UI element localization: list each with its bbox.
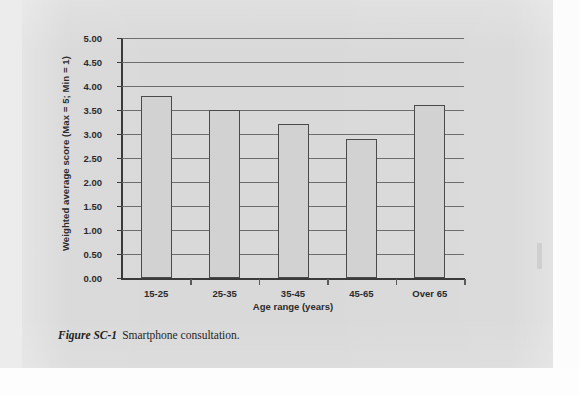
y-axis-tickmark (117, 38, 122, 39)
y-axis-tickmark (117, 86, 122, 87)
y-axis-tickmark (117, 206, 122, 207)
y-axis-tickmark (117, 62, 122, 63)
y-axis-tick-label: 1.00 (58, 225, 102, 236)
x-axis-category-tick (327, 279, 329, 285)
x-axis-tick-label: 25-35 (212, 288, 236, 299)
page-bottom-margin (0, 368, 579, 396)
y-axis-tick-label: 1.50 (58, 201, 102, 212)
y-axis-tickmark (117, 230, 122, 231)
x-axis-title: Age range (years) (122, 301, 464, 312)
x-axis-tick-label: 35-45 (281, 288, 305, 299)
figure-block: Weighted average score (Max = 5; Min = 1… (22, 0, 553, 368)
bar (414, 105, 445, 278)
y-axis-tickmark (117, 182, 122, 183)
figure-caption: Figure SC-1Smartphone consultation. (58, 329, 240, 341)
page-right-margin (553, 0, 579, 368)
y-axis-tickmark (117, 158, 122, 159)
y-axis-tick-label: 0.00 (58, 273, 102, 284)
y-axis-tick-label: 3.00 (58, 129, 102, 140)
y-axis-tick-label: 3.50 (58, 105, 102, 116)
y-axis-tick-labels: 5.004.504.003.503.002.502.001.501.000.50… (58, 33, 102, 283)
x-axis-category-tick (259, 279, 261, 285)
y-axis-tick-label: 2.00 (58, 177, 102, 188)
chart-plot-area: 15-2525-3535-4545-65Over 65 (122, 38, 464, 278)
y-axis-tick-label: 5.00 (58, 33, 102, 44)
gridline (122, 86, 464, 87)
figure-caption-text: Smartphone consultation. (122, 329, 240, 341)
y-axis-tick-label: 4.00 (58, 81, 102, 92)
x-axis-line (121, 278, 465, 280)
gridline (122, 62, 464, 63)
bar (209, 110, 240, 278)
gridline (122, 110, 464, 111)
bar (141, 96, 172, 278)
x-axis-tick-label: Over 65 (412, 288, 447, 299)
y-axis-tickmark (117, 254, 122, 255)
y-axis-tick-label: 0.50 (58, 249, 102, 260)
y-axis-tickmark (117, 278, 122, 279)
y-axis-tickmark (117, 134, 122, 135)
x-axis-tick-label: 45-65 (349, 288, 373, 299)
bar (346, 139, 377, 278)
x-axis-category-tick (396, 279, 398, 285)
page-left-margin (0, 0, 22, 396)
x-axis-category-tick (464, 279, 466, 285)
y-axis-tickmark (117, 110, 122, 111)
gridline (122, 38, 464, 39)
y-axis-tick-label: 2.50 (58, 153, 102, 164)
x-axis-category-tick (190, 279, 192, 285)
x-axis-tick-label: 15-25 (144, 288, 168, 299)
bar (278, 124, 309, 278)
figure-caption-label: Figure SC-1 (58, 329, 117, 341)
y-axis-tick-label: 4.50 (58, 57, 102, 68)
